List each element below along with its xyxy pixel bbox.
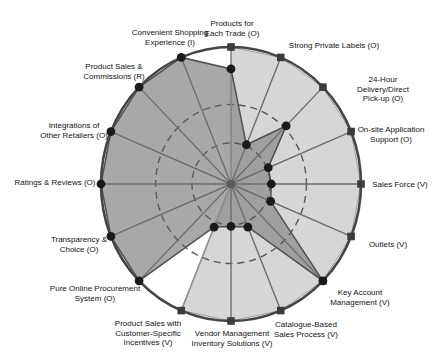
data-point-square-3 xyxy=(319,83,327,91)
data-point-circle-5 xyxy=(267,180,276,189)
axis-label-9: Vendor ManagementInventory Solutions (V) xyxy=(192,329,273,348)
data-point-circle-8 xyxy=(244,223,253,232)
data-point-circle-13 xyxy=(97,180,106,189)
axis-label-1: Products forEach Trade (O) xyxy=(205,19,260,38)
axis-label-7: Key AccountManagement (V) xyxy=(330,288,390,307)
axis-label-4: On-site ApplicationSupport (O) xyxy=(358,125,425,144)
axis-label-8: Catalogue-BasedSales Process (V) xyxy=(274,320,338,339)
data-point-circle-6 xyxy=(266,197,275,206)
data-point-circle-4 xyxy=(264,163,273,172)
data-point-square-10 xyxy=(177,307,185,315)
data-point-circle-15 xyxy=(135,83,144,92)
radar-chart-figure: Products forEach Trade (O)Strong Private… xyxy=(0,0,448,358)
data-point-circle-1 xyxy=(227,65,236,74)
data-point-square-6 xyxy=(347,233,355,241)
axis-label-13: Ratings & Reviews (O) xyxy=(15,178,96,188)
axis-label-6: Outlets (V) xyxy=(369,240,407,250)
axis-label-5: Sales Force (V) xyxy=(372,180,428,190)
data-point-circle-12 xyxy=(106,232,115,241)
data-point-circle-2 xyxy=(242,140,251,149)
data-point-square-4 xyxy=(347,128,355,136)
axis-label-14: Integrations ofOther Retailers (O) xyxy=(40,121,108,140)
axis-label-15: Product Sales &Commissions (R) xyxy=(83,62,144,81)
axis-label-2: Strong Private Labels (O) xyxy=(289,41,379,51)
axis-label-3: 24-HourDelivery/DirectPick-up (O) xyxy=(357,75,409,104)
axis-label-11: Pure Online ProcurementSystem (O) xyxy=(50,284,140,303)
data-point-circle-9 xyxy=(227,222,236,231)
data-point-circle-7 xyxy=(319,276,328,285)
axis-label-16: Convenient ShoppingExperience (I) xyxy=(132,28,209,47)
axis-label-10: Product Sales withCustomer-SpecificIncen… xyxy=(115,319,181,348)
data-point-square-8 xyxy=(277,307,285,315)
center-dot xyxy=(227,180,235,188)
data-point-square-1 xyxy=(227,43,235,51)
data-point-circle-10 xyxy=(210,223,219,232)
data-point-circle-3 xyxy=(282,121,291,130)
data-point-circle-16 xyxy=(177,53,186,62)
axis-label-12: Transparency &Choice (O) xyxy=(51,235,107,254)
data-point-square-5 xyxy=(357,180,365,188)
data-point-square-9 xyxy=(227,317,235,325)
data-point-square-2 xyxy=(277,54,285,62)
